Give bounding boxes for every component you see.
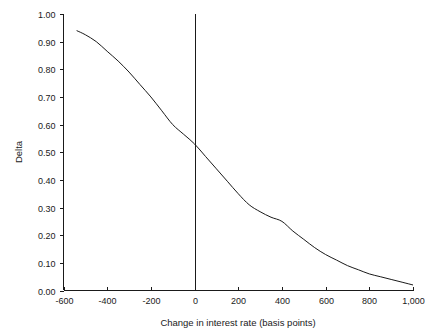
x-axis-group: -600-400-20002004006008001,000 bbox=[55, 287, 424, 306]
x-axis-tick-labels: -600-400-20002004006008001,000 bbox=[55, 296, 424, 306]
x-tick-label: 1,000 bbox=[402, 296, 425, 306]
y-tick-label: 0.60 bbox=[38, 121, 56, 131]
y-tick-label: 0.10 bbox=[38, 259, 56, 269]
delta-curve bbox=[77, 31, 413, 285]
chart-page: 0.000.100.200.300.400.500.600.700.800.90… bbox=[0, 0, 440, 333]
y-tick-label: 0.40 bbox=[38, 176, 56, 186]
y-tick-label: 0.80 bbox=[38, 65, 56, 75]
y-axis-tick-labels: 0.000.100.200.300.400.500.600.700.800.90… bbox=[38, 10, 56, 297]
x-tick-label: -200 bbox=[142, 296, 160, 306]
x-tick-label: 200 bbox=[231, 296, 246, 306]
y-axis-group: 0.000.100.200.300.400.500.600.700.800.90… bbox=[38, 10, 64, 297]
y-tick-label: 0.90 bbox=[38, 38, 56, 48]
y-tick-label: 0.00 bbox=[38, 287, 56, 297]
x-tick-label: -600 bbox=[55, 296, 73, 306]
x-tick-label: 800 bbox=[362, 296, 377, 306]
y-tick-label: 0.20 bbox=[38, 231, 56, 241]
delta-vs-interest-rate-chart: 0.000.100.200.300.400.500.600.700.800.90… bbox=[0, 0, 440, 333]
y-tick-label: 0.30 bbox=[38, 204, 56, 214]
x-axis-title: Change in interest rate (basis points) bbox=[160, 317, 315, 328]
x-tick-label: 0 bbox=[193, 296, 198, 306]
x-tick-label: -400 bbox=[98, 296, 116, 306]
x-tick-label: 400 bbox=[275, 296, 290, 306]
x-tick-label: 600 bbox=[319, 296, 334, 306]
x-axis-ticks bbox=[65, 287, 414, 291]
y-tick-label: 0.50 bbox=[38, 148, 56, 158]
y-tick-label: 0.70 bbox=[38, 93, 56, 103]
y-axis-title: Delta bbox=[13, 140, 24, 163]
y-axis-ticks bbox=[60, 15, 64, 292]
y-tick-label: 1.00 bbox=[38, 10, 56, 20]
